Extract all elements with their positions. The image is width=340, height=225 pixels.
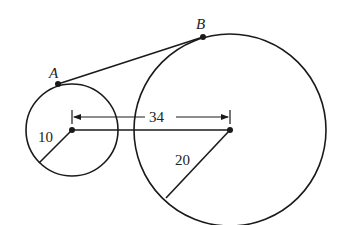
- point-B: [200, 34, 206, 40]
- dim-arrow-left: [73, 114, 81, 120]
- label-A: A: [48, 65, 59, 81]
- dim-arrow-right: [221, 114, 229, 120]
- tangent-segment-AB: [58, 37, 203, 84]
- distance-label: 34: [149, 109, 165, 125]
- large-radius-label: 20: [175, 152, 190, 168]
- label-B: B: [196, 16, 205, 32]
- small-center: [69, 127, 75, 133]
- small-radius-label: 10: [38, 129, 53, 145]
- point-A: [55, 81, 61, 87]
- large-center: [227, 127, 233, 133]
- tangent-circles-diagram: A B 10 20 34: [0, 0, 340, 225]
